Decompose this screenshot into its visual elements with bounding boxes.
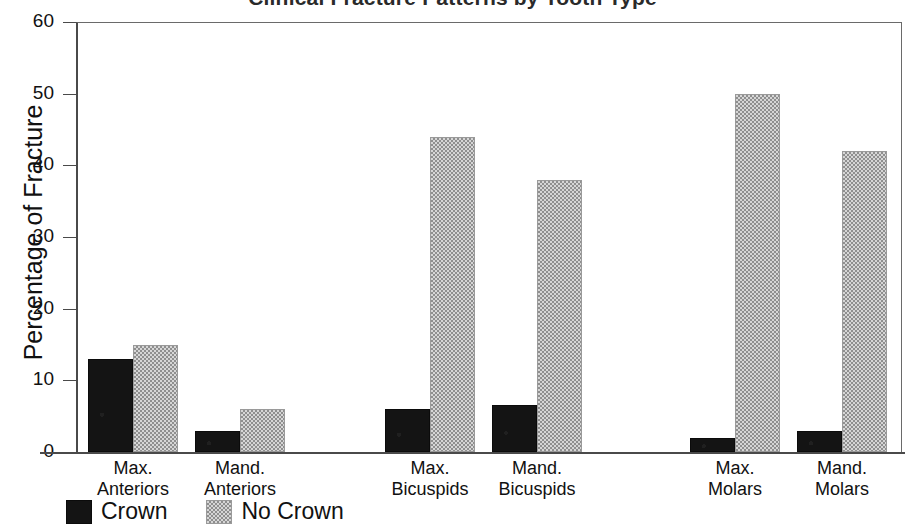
y-axis-tick-label: 20 bbox=[14, 297, 54, 319]
bar-no-crown bbox=[240, 409, 285, 452]
x-axis-category-label: Mand.Anteriors bbox=[165, 458, 315, 500]
legend-item[interactable]: No Crown bbox=[206, 498, 343, 525]
bar-crown bbox=[797, 431, 842, 453]
y-axis-tick bbox=[63, 237, 76, 238]
y-axis-tick bbox=[63, 22, 76, 23]
bar-no-crown bbox=[133, 345, 178, 453]
chart-legend: CrownNo Crown bbox=[66, 498, 374, 525]
x-axis-category-line: Mand. bbox=[462, 458, 612, 479]
legend-item[interactable]: Crown bbox=[66, 498, 167, 525]
y-axis-tick-label: 0 bbox=[14, 440, 54, 462]
y-axis-tick bbox=[63, 309, 76, 310]
legend-item-label: Crown bbox=[101, 498, 167, 525]
bar-crown bbox=[385, 409, 430, 452]
y-axis-tick-label: 40 bbox=[14, 153, 54, 175]
y-axis-tick-label: 50 bbox=[14, 82, 54, 104]
bar-no-crown bbox=[430, 137, 475, 452]
bar-no-crown bbox=[735, 94, 780, 452]
x-axis-category-label: Mand.Molars bbox=[767, 458, 905, 500]
chart-title: Clinical Fracture Patterns by Tooth Type bbox=[0, 0, 905, 10]
y-axis-tick bbox=[63, 165, 76, 166]
x-axis-category-line: Bicuspids bbox=[462, 479, 612, 500]
x-axis-category-label: Mand.Bicuspids bbox=[462, 458, 612, 500]
bar-series-container bbox=[76, 22, 902, 452]
x-axis-category-line: Molars bbox=[767, 479, 905, 500]
x-axis-category-line: Mand. bbox=[165, 458, 315, 479]
gray-dotted-swatch bbox=[206, 500, 232, 524]
y-axis-tick-label: 60 bbox=[14, 10, 54, 32]
y-axis-tick-label: 10 bbox=[14, 368, 54, 390]
bar-no-crown bbox=[537, 180, 582, 452]
solid-black-swatch bbox=[66, 500, 92, 524]
y-axis-tick bbox=[63, 380, 76, 381]
x-axis-category-line: Anteriors bbox=[165, 479, 315, 500]
y-axis-tick bbox=[63, 94, 76, 95]
x-axis-category-line: Mand. bbox=[767, 458, 905, 479]
y-axis-tick-label: 30 bbox=[14, 225, 54, 247]
legend-item-label: No Crown bbox=[241, 498, 343, 525]
chart-figure: Clinical Fracture Patterns by Tooth Type… bbox=[0, 0, 905, 529]
bar-crown bbox=[492, 405, 537, 452]
bar-no-crown bbox=[842, 151, 887, 452]
x-axis-baseline bbox=[40, 452, 905, 454]
bar-crown bbox=[690, 438, 735, 452]
bar-crown bbox=[88, 359, 133, 452]
bar-crown bbox=[195, 431, 240, 453]
